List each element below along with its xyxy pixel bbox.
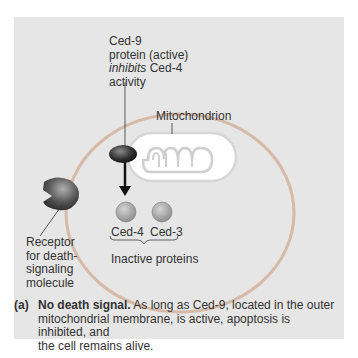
caption-title: No death signal. xyxy=(38,298,131,312)
inactive-proteins-label: Inactive proteins xyxy=(111,253,198,267)
receptor-pointer xyxy=(40,205,62,236)
receptor-icon xyxy=(43,177,79,210)
receptor-label: Receptor for death- signaling molecule xyxy=(26,236,77,290)
ced3-label: Ced-3 xyxy=(150,226,183,240)
inhibition-arrow-head xyxy=(119,186,131,196)
ced4-protein-icon xyxy=(116,202,136,222)
mitochondrion-label: Mitochondrion xyxy=(156,110,231,124)
ced9-protein-icon xyxy=(109,145,137,163)
ced3-protein-icon xyxy=(152,202,172,222)
ced9-label: Ced-9 protein (active) inhibits Ced-4 ac… xyxy=(109,35,188,89)
caption-tag: (a) xyxy=(14,299,29,313)
ced4-label: Ced-4 xyxy=(111,226,144,240)
mitochondrion-icon xyxy=(128,133,236,181)
figure-caption: (a) No death signal. As long as Ced-9, l… xyxy=(38,299,338,353)
